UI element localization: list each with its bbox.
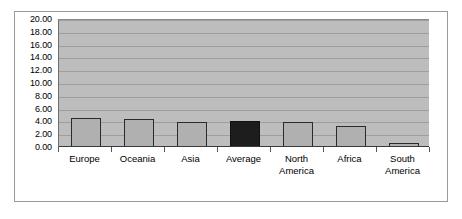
- x-axis-label-line: Africa: [323, 153, 376, 165]
- chart-card: 20.0018.0016.0014.0012.0010.008.006.004.…: [14, 11, 448, 202]
- y-axis-tick-label: 16.00: [30, 40, 52, 50]
- bar-average[interactable]: [230, 121, 260, 147]
- y-axis-tick-label: 18.00: [30, 27, 52, 37]
- y-axis-tick-label: 20.00: [30, 14, 52, 24]
- x-axis-label-line: Asia: [164, 153, 217, 165]
- bar-slot: [377, 20, 430, 147]
- bar-north-america[interactable]: [283, 122, 313, 147]
- x-axis-label-europe: Europe: [58, 153, 111, 165]
- bar-slot: [218, 20, 271, 147]
- y-axis-tick-label: 4.00: [35, 116, 52, 126]
- plot-wrapper: [58, 19, 429, 147]
- x-axis-tick: [323, 147, 324, 152]
- x-axis-label-average: Average: [217, 153, 270, 165]
- y-axis-tick-label: 10.00: [30, 78, 52, 88]
- x-axis-tick: [164, 147, 165, 152]
- x-axis-tick: [217, 147, 218, 152]
- bar-slot: [271, 20, 324, 147]
- bar-slot: [112, 20, 165, 147]
- x-axis-category-labels: EuropeOceaniaAsiaAverageNorthAmericaAfri…: [58, 153, 429, 193]
- x-axis-tick: [429, 147, 430, 152]
- bar-slot: [165, 20, 218, 147]
- bar-oceania[interactable]: [124, 119, 154, 147]
- x-axis-label-line: Average: [217, 153, 270, 165]
- y-axis-tick-labels: 20.0018.0016.0014.0012.0010.008.006.004.…: [15, 19, 56, 147]
- plot-area: [58, 19, 429, 147]
- x-axis-label-line: Europe: [58, 153, 111, 165]
- x-axis-label-south-america: SouthAmerica: [376, 153, 429, 177]
- bar-asia[interactable]: [177, 122, 207, 147]
- x-axis-label-line: South: [376, 153, 429, 165]
- bar-slot: [324, 20, 377, 147]
- y-axis-tick-label: 0.00: [35, 142, 52, 152]
- x-axis-tick: [58, 147, 59, 152]
- x-axis-line: [59, 146, 429, 147]
- x-axis-label-line: North: [270, 153, 323, 165]
- y-axis-tick-label: 2.00: [35, 129, 52, 139]
- x-axis-label-line: Oceania: [111, 153, 164, 165]
- bar-slot: [59, 20, 112, 147]
- bar-europe[interactable]: [71, 118, 101, 147]
- x-axis-tick: [270, 147, 271, 152]
- y-axis-tick-label: 14.00: [30, 52, 52, 62]
- x-axis-label-oceania: Oceania: [111, 153, 164, 165]
- y-axis-tick-label: 6.00: [35, 104, 52, 114]
- x-axis-label-line: America: [376, 165, 429, 177]
- x-axis-tick: [111, 147, 112, 152]
- x-axis-label-line: America: [270, 165, 323, 177]
- x-axis-label-africa: Africa: [323, 153, 376, 165]
- y-axis-tick-label: 12.00: [30, 65, 52, 75]
- x-axis-label-north-america: NorthAmerica: [270, 153, 323, 177]
- x-axis-label-asia: Asia: [164, 153, 217, 165]
- bar-africa[interactable]: [336, 126, 366, 147]
- bars-layer: [59, 20, 429, 147]
- y-axis-tick-label: 8.00: [35, 91, 52, 101]
- x-axis-tick: [376, 147, 377, 152]
